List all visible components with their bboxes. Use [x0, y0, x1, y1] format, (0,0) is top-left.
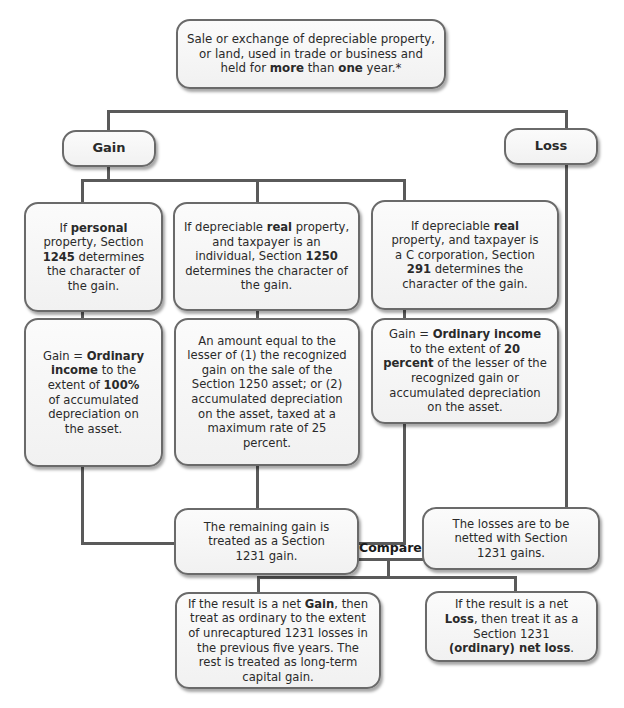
text: If the result is a net	[455, 597, 568, 611]
bold-text: one	[338, 61, 363, 75]
text: year.*	[363, 61, 402, 75]
compare-label: Compare	[359, 540, 422, 555]
text: The remaining gain is treated as a Secti…	[204, 520, 329, 563]
bold-text: Gain	[305, 597, 335, 611]
col1-result-text: Gain = Ordinary income to the extent of …	[42, 349, 145, 437]
col2-rule-text: If depreciable real property, and taxpay…	[183, 220, 350, 293]
connector-col1-down	[81, 466, 84, 545]
bold-text: (ordinary) net loss	[449, 641, 570, 655]
connector-compare-down	[387, 558, 390, 578]
text: property, and taxpayer is a C corporatio…	[391, 233, 538, 262]
losses-netted-box: The losses are to be netted with Section…	[422, 507, 600, 570]
text: than	[304, 61, 338, 75]
loss-label: Loss	[535, 139, 568, 154]
net-loss-text: If the result is a net Loss, then treat …	[439, 597, 584, 655]
bold-text: 1245	[43, 250, 75, 264]
remaining-gain-box: The remaining gain is treated as a Secti…	[174, 508, 359, 575]
connector-result-gain	[257, 576, 260, 593]
text: If the result is a net	[188, 597, 305, 611]
connector-col2-down	[256, 465, 259, 510]
section-1245-result-box: Gain = Ordinary income to the extent of …	[24, 318, 163, 467]
col3-rule-text: If depreciable real property, and taxpay…	[387, 219, 543, 292]
section-1250-result-box: An amount equal to the lesser of (1) the…	[174, 318, 360, 466]
loss-box: Loss	[504, 128, 598, 165]
connector-branch-3	[403, 179, 406, 202]
text: to the extent of	[410, 342, 504, 356]
connector-col1-to-remaining	[81, 542, 176, 545]
col1-rule-text: If personal property, Section 1245 deter…	[38, 221, 149, 294]
top-text: Sale or exchange of depreciable property…	[186, 32, 436, 76]
section-291-box: If depreciable real property, and taxpay…	[371, 200, 559, 310]
text: If depreciable	[411, 219, 494, 233]
text: property, Section	[43, 235, 143, 249]
text: If	[60, 221, 71, 235]
net-gain-box: If the result is a net Gain, then treat …	[175, 592, 381, 689]
bold-text: real	[494, 219, 519, 233]
bold-text: 100%	[104, 378, 140, 392]
text: .	[570, 641, 574, 655]
connector-result-loss	[514, 576, 517, 592]
gain-box: Gain	[62, 130, 156, 167]
losses-netted-text: The losses are to be netted with Section…	[438, 517, 584, 561]
top-condition-box: Sale or exchange of depreciable property…	[176, 19, 446, 89]
text: Gain =	[389, 327, 433, 341]
section-1250-box: If depreciable real property, and taxpay…	[173, 202, 360, 311]
connector-branch-1	[81, 179, 84, 203]
bold-text: Loss	[445, 612, 474, 626]
section-1245-box: If personal property, Section 1245 deter…	[24, 202, 163, 312]
connector-loss-right	[565, 110, 568, 570]
connector-to-gain	[107, 110, 110, 131]
bold-text: 1250	[306, 249, 338, 263]
connector-result-branches	[257, 576, 517, 579]
text: The losses are to be netted with Section…	[453, 517, 570, 560]
text: of accumulated depreciation on the asset…	[48, 393, 139, 436]
col3-result-text: Gain = Ordinary income to the extent of …	[383, 327, 547, 415]
connector-col3-down	[403, 423, 406, 545]
remaining-gain-text: The remaining gain is treated as a Secti…	[192, 520, 341, 564]
gain-label: Gain	[92, 141, 125, 156]
text: If depreciable	[184, 220, 267, 234]
net-loss-box: If the result is a net Loss, then treat …	[425, 591, 598, 662]
section-291-result-box: Gain = Ordinary income to the extent of …	[371, 318, 559, 424]
net-gain-text: If the result is a net Gain, then treat …	[185, 597, 371, 685]
connector-branch-2	[256, 179, 259, 203]
bold-text: real	[267, 220, 292, 234]
bold-text: more	[270, 61, 304, 75]
text: An amount equal to the lesser of (1) the…	[187, 334, 346, 450]
bold-text: 291	[407, 262, 431, 276]
bold-text: Ordinary income	[433, 327, 541, 341]
text: Gain =	[43, 349, 87, 363]
connector-gain-branches	[81, 179, 406, 182]
connector-gain-loss-top	[107, 110, 568, 113]
text: determines the character of the gain.	[185, 264, 348, 293]
text: , then treat it as a Section 1231	[473, 612, 578, 641]
bold-text: personal	[71, 221, 128, 235]
col2-result-text: An amount equal to the lesser of (1) the…	[186, 334, 348, 451]
